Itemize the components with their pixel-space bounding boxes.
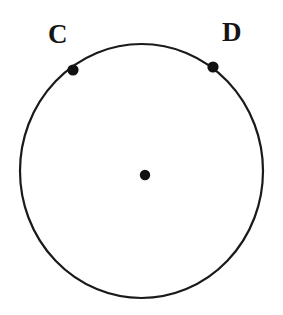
point-d-label: D	[222, 19, 242, 46]
circle-diagram: C D	[0, 0, 283, 315]
point-c	[67, 64, 78, 75]
diagram-background	[0, 0, 283, 315]
point-c-label: C	[48, 21, 68, 48]
diagram-canvas	[0, 0, 283, 315]
circle-center-point	[140, 170, 150, 180]
point-d	[207, 61, 218, 72]
